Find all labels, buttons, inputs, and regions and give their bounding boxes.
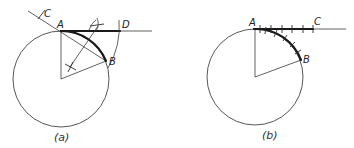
figure-b: A B C (b): [207, 16, 346, 142]
label-c-fig-a: C: [44, 8, 51, 19]
label-c-fig-b: C: [314, 16, 321, 27]
label-b-fig-b: B: [303, 54, 310, 65]
caption-a: (a): [54, 131, 69, 144]
radius-ob-b: [255, 60, 301, 77]
figure-a: A B C D (a): [13, 8, 152, 144]
label-b-fig-a: B: [109, 56, 116, 67]
label-a-fig-a: A: [56, 19, 64, 30]
diagram-canvas: A B C D (a): [0, 0, 354, 148]
arc-ab-b: [255, 29, 301, 60]
label-a-fig-b: A: [248, 17, 256, 28]
label-d-fig-a: D: [122, 19, 130, 30]
bisector-lower-mark: [65, 62, 76, 72]
radius-ob: [61, 61, 106, 79]
caption-b: (b): [262, 129, 278, 142]
